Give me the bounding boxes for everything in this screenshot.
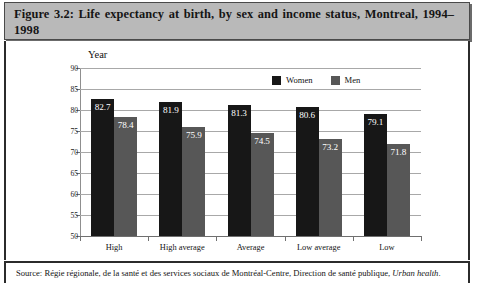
source-note-italic: Urban health: [392, 268, 438, 278]
x-tick-mark: [80, 236, 81, 241]
figure-container: Figure 3.2: Life expectancy at birth, by…: [0, 0, 478, 283]
bar-men-low-average: 73.2: [319, 139, 342, 236]
bar-men-average: 74.5: [251, 133, 274, 236]
bar-women-high-average: 81.9: [159, 102, 182, 236]
source-note-prefix: Source: Régie régionale, de la santé et …: [16, 268, 392, 278]
gridline: [80, 89, 421, 90]
bar-women-low: 79.1: [364, 114, 387, 236]
bar-value-label: 81.3: [228, 108, 251, 118]
y-tick-label: 50: [54, 232, 78, 241]
bar-women-high: 82.7: [91, 99, 114, 236]
bar-value-label: 78.4: [114, 120, 137, 130]
bar-men-high: 78.4: [114, 117, 137, 236]
y-tick-label: 55: [54, 211, 78, 220]
y-tick-label: 65: [54, 169, 78, 178]
x-tick-mark: [148, 236, 149, 241]
y-tick-label: 60: [54, 190, 78, 199]
x-tick-mark: [216, 236, 217, 241]
page-title: Figure 3.2: Life expectancy at birth, by…: [14, 6, 454, 38]
bar-value-label: 73.2: [319, 142, 342, 152]
x-tick-mark: [353, 236, 354, 241]
bar-women-low-average: 80.6: [296, 107, 319, 236]
x-axis-category-label: High average: [160, 243, 205, 252]
source-area: Source: Régie régionale, de la santé et …: [4, 263, 470, 283]
gridline: [80, 68, 421, 69]
chart-panel: Year Women Men 908580757065605550 82.778…: [4, 41, 470, 260]
bar-value-label: 75.9: [182, 130, 205, 140]
y-tick-label: 90: [54, 64, 78, 73]
y-tick-label: 85: [54, 85, 78, 94]
source-note-suffix: .: [438, 268, 440, 278]
figure-title-banner: Figure 3.2: Life expectancy at birth, by…: [4, 2, 470, 40]
gridline: [80, 236, 421, 237]
bar-value-label: 82.7: [91, 102, 114, 112]
x-axis-category-label: Low average: [297, 243, 340, 252]
bar-value-label: 79.1: [364, 117, 387, 127]
bar-men-high-average: 75.9: [182, 127, 205, 236]
bar-women-average: 81.3: [228, 105, 251, 236]
bar-value-label: 80.6: [296, 110, 319, 120]
y-tick-label: 80: [54, 106, 78, 115]
x-tick-mark: [285, 236, 286, 241]
bar-men-low: 71.8: [387, 144, 410, 236]
bar-value-label: 81.9: [159, 105, 182, 115]
x-axis-category-label: High: [106, 243, 123, 252]
bar-value-label: 71.8: [387, 147, 410, 157]
x-tick-mark: [421, 236, 422, 241]
bar-value-label: 74.5: [251, 136, 274, 146]
gridline: [80, 110, 421, 111]
y-axis-caption: Year: [88, 49, 107, 60]
plot-area: 908580757065605550 82.778.481.975.981.37…: [80, 68, 421, 236]
y-tick-label: 75: [54, 127, 78, 136]
x-axis-category-label: Average: [237, 243, 265, 252]
y-tick-label: 70: [54, 148, 78, 157]
source-note: Source: Régie régionale, de la santé et …: [16, 268, 464, 278]
x-axis-category-label: Low: [379, 243, 394, 252]
